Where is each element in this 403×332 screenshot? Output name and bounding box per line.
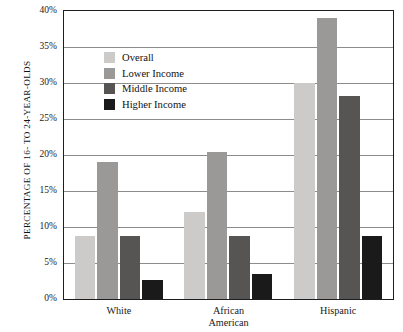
legend-swatch-lower-income bbox=[104, 68, 115, 79]
y-tick-20%: 20% bbox=[13, 149, 57, 159]
legend-label-lower-income: Lower Income bbox=[122, 68, 184, 79]
legend-item-lower-income[interactable]: Lower Income bbox=[104, 66, 187, 82]
bar-white-lower-income bbox=[97, 162, 118, 299]
bar-african-american-overall bbox=[184, 212, 205, 299]
bar-group-hispanic bbox=[283, 11, 393, 299]
legend-label-middle-income: Middle Income bbox=[122, 83, 187, 94]
bar-hispanic-middle-income bbox=[339, 96, 360, 299]
legend-swatch-middle-income bbox=[104, 83, 115, 94]
bar-hispanic-overall bbox=[294, 83, 315, 299]
bar-group-african-american bbox=[174, 11, 284, 299]
x-category-hispanic: Hispanic bbox=[283, 305, 393, 317]
legend-label-higher-income: Higher Income bbox=[122, 99, 186, 110]
bar-white-middle-income bbox=[120, 236, 141, 299]
bar-white-overall bbox=[75, 236, 96, 299]
x-category-line: American bbox=[174, 317, 284, 329]
y-tick-25%: 25% bbox=[13, 113, 57, 123]
y-tick-30%: 30% bbox=[13, 77, 57, 87]
y-tick-40%: 40% bbox=[13, 5, 57, 15]
x-category-white: White bbox=[64, 305, 174, 317]
bar-african-american-lower-income bbox=[207, 152, 228, 299]
bar-hispanic-lower-income bbox=[317, 18, 338, 300]
legend-item-higher-income[interactable]: Higher Income bbox=[104, 97, 187, 113]
y-tick-5%: 5% bbox=[13, 257, 57, 267]
bar-chart: PERCENTAGE OF 16- TO 24-YEAR-OLDS 0%5%10… bbox=[0, 0, 403, 332]
legend-label-overall: Overall bbox=[122, 52, 154, 63]
bar-white-higher-income bbox=[142, 280, 163, 299]
legend: OverallLower IncomeMiddle IncomeHigher I… bbox=[104, 50, 187, 112]
x-category-line: African bbox=[174, 305, 284, 317]
legend-item-overall[interactable]: Overall bbox=[104, 50, 187, 66]
bar-african-american-higher-income bbox=[252, 274, 273, 299]
bar-hispanic-higher-income bbox=[362, 236, 383, 299]
legend-swatch-overall bbox=[104, 52, 115, 63]
y-tick-10%: 10% bbox=[13, 221, 57, 231]
legend-swatch-higher-income bbox=[104, 99, 115, 110]
x-category-line: White bbox=[64, 305, 174, 317]
x-category-african-american: AfricanAmerican bbox=[174, 305, 284, 328]
legend-item-middle-income[interactable]: Middle Income bbox=[104, 81, 187, 97]
bar-african-american-middle-income bbox=[229, 236, 250, 299]
y-tick-35%: 35% bbox=[13, 41, 57, 51]
y-tick-0%: 0% bbox=[13, 293, 57, 303]
x-category-line: Hispanic bbox=[283, 305, 393, 317]
y-tick-15%: 15% bbox=[13, 185, 57, 195]
